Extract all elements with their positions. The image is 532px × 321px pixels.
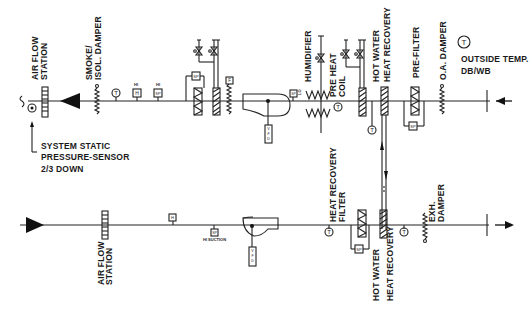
hw-heat-recovery-exhaust: HOT WATER HEAT RECOVERY bbox=[371, 210, 395, 301]
exhaust-damper: EXH. DAMPER bbox=[423, 184, 446, 243]
svg-text:D: D bbox=[267, 137, 270, 141]
hvac-schematic: SYSTEM STATIC PRESSURE-SENSOR 2/3 DOWN A… bbox=[0, 0, 532, 321]
return-airflow-station: AIR FLOW STATION bbox=[96, 211, 114, 285]
svg-text:HI: HI bbox=[134, 82, 138, 87]
fan-icon bbox=[243, 94, 290, 116]
svg-text:H: H bbox=[135, 90, 139, 96]
supply-sensors: T H HI SP HI bbox=[112, 82, 162, 101]
svg-text:LO: LO bbox=[297, 89, 302, 95]
system-static-label-2: PRESSURE-SENSOR bbox=[41, 152, 130, 162]
preheat-coil: T PRE HEAT COIL bbox=[328, 40, 366, 116]
return-temp-sensor: T bbox=[325, 225, 333, 236]
humidifier-grid-icon bbox=[306, 91, 330, 99]
control-valve-icon bbox=[194, 47, 202, 55]
svg-text:F: F bbox=[267, 132, 269, 136]
control-valve-icon bbox=[355, 50, 363, 58]
return-fan: V F D bbox=[243, 217, 278, 266]
final-filter: SP bbox=[186, 72, 204, 115]
hi-suction-label: HI SUCTION bbox=[203, 237, 226, 242]
pre-filter: SP PRE-FILTER bbox=[404, 27, 424, 130]
system-static-pressure-sensor: SYSTEM STATIC PRESSURE-SENSOR 2/3 DOWN bbox=[28, 104, 130, 174]
return-flow-arrow-icon bbox=[26, 217, 44, 233]
prefilter-label: PRE-FILTER bbox=[411, 27, 421, 78]
humidifier-valve-icon bbox=[316, 54, 324, 62]
svg-text:D: D bbox=[251, 259, 254, 263]
hw-hr-label-2: HEAT RECOVERY bbox=[382, 7, 392, 82]
pointer-arrow-icon bbox=[30, 121, 34, 127]
svg-text:F: F bbox=[228, 78, 231, 83]
hw-heat-recovery-supply: HOT WATER HEAT RECOVERY bbox=[371, 7, 392, 115]
humidifier-label: HUMIDIFIER bbox=[303, 30, 313, 82]
hw-supply-temp-sensor: T bbox=[368, 101, 376, 134]
svg-text:V: V bbox=[251, 249, 254, 253]
hi-suction-sensor: SP HI SUCTION bbox=[203, 225, 226, 242]
control-valve-icon bbox=[209, 47, 217, 55]
system-static-label-1: SYSTEM STATIC bbox=[41, 141, 110, 151]
hw-hr-bottom-label-2: HEAT RECOVERY bbox=[385, 226, 395, 301]
supply-airflow-station: AIR FLOW STATION bbox=[30, 36, 49, 117]
svg-text:SP: SP bbox=[212, 231, 217, 235]
svg-text:SP: SP bbox=[356, 247, 362, 252]
oa-damper: O.A. DAMPER bbox=[438, 21, 448, 114]
return-humidity-sensor: H bbox=[169, 214, 176, 225]
oa-inflow-arrow-icon bbox=[496, 97, 512, 105]
svg-text:T: T bbox=[370, 127, 374, 133]
freeze-stat: F bbox=[226, 77, 233, 114]
svg-text:T: T bbox=[402, 229, 406, 235]
supply-flow-arrow-icon bbox=[60, 93, 80, 109]
exh-damper-label-2: DAMPER bbox=[436, 184, 446, 222]
control-valve-icon bbox=[341, 50, 349, 58]
hr-filter-label-2: FILTER bbox=[337, 192, 347, 222]
svg-text:T: T bbox=[462, 38, 467, 47]
oa-damper-label: O.A. DAMPER bbox=[438, 21, 448, 80]
svg-text:SP: SP bbox=[155, 91, 161, 96]
svg-text:T: T bbox=[327, 229, 331, 235]
svg-text:SP: SP bbox=[193, 74, 199, 79]
system-static-label-3: 2/3 DOWN bbox=[41, 164, 84, 174]
fan-icon bbox=[243, 218, 278, 236]
smoke-isolation-damper: SMOKE/ ISOL. DAMPER bbox=[84, 16, 103, 114]
low-static-sensor: SP LO bbox=[290, 89, 302, 101]
airflow-station-label-2: STATION bbox=[39, 43, 49, 80]
svg-text:V: V bbox=[267, 127, 270, 131]
smoke-damper-label-2: ISOL. DAMPER bbox=[93, 16, 103, 80]
svg-text:T: T bbox=[114, 90, 118, 96]
exhaust-temp-sensor: T bbox=[400, 225, 408, 236]
svg-text:F: F bbox=[251, 254, 253, 258]
svg-text:SP: SP bbox=[291, 92, 296, 96]
outside-temp-label-1: OUTSIDE TEMP. bbox=[461, 54, 529, 64]
svg-text:H: H bbox=[171, 215, 174, 220]
return-airflow-label-2: STATION bbox=[104, 248, 114, 285]
outside-temp-label-2: DB/WB bbox=[461, 66, 491, 76]
svg-text:T: T bbox=[336, 104, 340, 110]
flow-up-arrow-icon bbox=[380, 141, 384, 150]
svg-text:HI: HI bbox=[156, 82, 160, 87]
humidifier: HUMIDIFIER bbox=[303, 30, 330, 133]
duct-break-icon bbox=[20, 96, 24, 107]
preheat-label-2: COIL bbox=[337, 76, 347, 97]
heat-recovery-filter: HEAT RECOVERY FILTER SP bbox=[328, 147, 369, 253]
exhaust-outflow-arrow-icon bbox=[495, 221, 514, 229]
flow-down-arrow-icon bbox=[384, 171, 388, 180]
outside-temp-sensor: T OUTSIDE TEMP. DB/WB bbox=[458, 36, 529, 76]
hw-hr-bottom-label-1: HOT WATER bbox=[371, 249, 381, 301]
svg-text:SP: SP bbox=[410, 124, 416, 129]
hw-hr-label-1: HOT WATER bbox=[371, 30, 381, 82]
